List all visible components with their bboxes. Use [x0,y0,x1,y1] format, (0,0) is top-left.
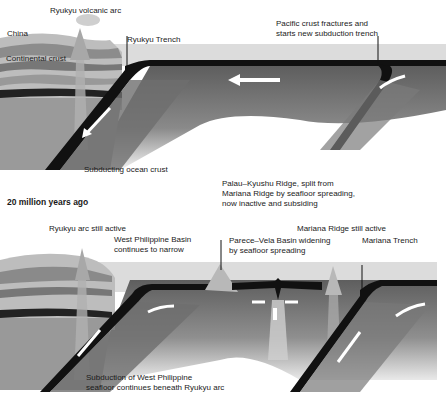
label-palau-1: Palau–Kyushu Ridge, split from [222,179,334,189]
diagram-panel-present: Ryukyu volcanic arc China Continental cr… [0,0,446,170]
label-parece-1: Parece–Vela Basin widening [229,236,330,246]
label-pacific-fracture-1: Pacific crust fractures and [276,19,368,29]
label-ryukyu-trench: Ryukyu Trench [127,35,180,45]
label-palau-3: now inactive and subsiding [222,199,318,209]
label-palau-2: Mariana Ridge by seafloor spreading, [222,189,355,199]
label-china: China [7,29,28,39]
label-continental-crust: Continental crust [6,54,66,64]
label-volcanic-arc: Ryukyu volcanic arc [50,6,121,16]
label-wpb-1: West Philippine Basin [114,235,191,245]
label-subducting-crust: Subducting ocean crust [84,165,168,175]
label-subduction-2: seafloor continues beneath Ryukyu arc [86,383,224,393]
label-parece-2: by seafloor spreading [229,246,306,256]
cross-section-graphic-bottom [0,180,446,399]
label-mariana-trench: Mariana Trench [362,236,418,246]
diagram-panel-20mya: 20 million years ago Ryukyu arc still ac… [0,180,446,399]
label-subduction-1: Subduction of West Philippine [86,373,192,383]
panel-title-time: 20 million years ago [7,197,88,207]
label-ryukyu-active: Ryukyu arc still active [49,224,126,234]
label-wpb-2: continues to narrow [114,245,184,255]
cross-section-graphic-top [0,0,446,170]
label-pacific-fracture-2: starts new subduction trench [276,29,378,39]
label-mariana-active: Mariana Ridge still active [297,224,386,234]
